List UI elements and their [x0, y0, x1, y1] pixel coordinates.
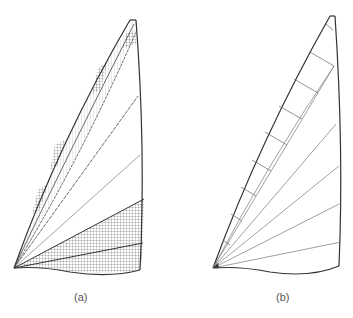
panel-label-b: (b) — [276, 291, 289, 303]
sail-b-seam-1 — [213, 66, 334, 268]
panel-label-a: (a) — [74, 291, 87, 303]
sail-b-cross-seam-4 — [279, 106, 302, 119]
sail-b-cross-seam-3 — [294, 79, 318, 93]
sail-b-cross-seam-5 — [265, 132, 287, 145]
sail-b-cross-seam-1 — [326, 24, 333, 30]
sail-b-leech — [335, 16, 341, 266]
sail-b-seam-3 — [213, 166, 339, 268]
sail-b-cross-seam-2 — [310, 52, 334, 66]
sail-b-seam-2 — [213, 124, 336, 268]
sail-a — [14, 20, 144, 275]
sail-b — [213, 16, 341, 274]
diagram-canvas — [0, 0, 353, 318]
sail-b-foot — [213, 266, 339, 274]
